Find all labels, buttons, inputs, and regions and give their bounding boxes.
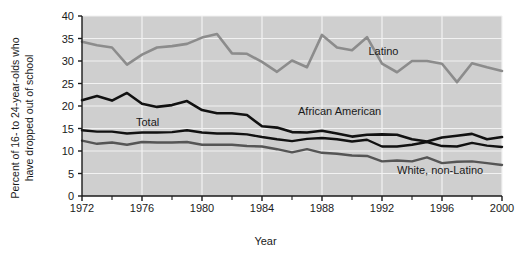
y-tick-label-10: 10 bbox=[50, 145, 74, 157]
y-tick-label-20: 20 bbox=[50, 100, 74, 112]
plot-area bbox=[0, 0, 531, 259]
x-tick-label-1976: 1976 bbox=[130, 202, 154, 214]
dropout-rate-line-chart: Percent of 16- to 24-year-olds who have … bbox=[0, 0, 531, 259]
x-tick-label-1972: 1972 bbox=[70, 202, 94, 214]
series-label-latino: Latino bbox=[369, 45, 399, 57]
x-tick-label-2000: 2000 bbox=[490, 202, 514, 214]
series-label-african-american: African American bbox=[298, 105, 381, 117]
y-tick-label-35: 35 bbox=[50, 33, 74, 45]
y-tick-label-15: 15 bbox=[50, 123, 74, 135]
x-tick-label-1988: 1988 bbox=[310, 202, 334, 214]
y-tick-label-30: 30 bbox=[50, 55, 74, 67]
series-label-total: Total bbox=[136, 116, 159, 128]
y-tick-label-40: 40 bbox=[50, 10, 74, 22]
y-tick-label-5: 5 bbox=[50, 168, 74, 180]
series-label-white-non-latino: White, non-Latino bbox=[397, 164, 483, 176]
y-tick-label-25: 25 bbox=[50, 78, 74, 90]
x-tick-label-1984: 1984 bbox=[250, 202, 274, 214]
x-tick-label-1996: 1996 bbox=[430, 202, 454, 214]
x-axis-title: Year bbox=[0, 235, 531, 247]
x-tick-label-1992: 1992 bbox=[370, 202, 394, 214]
x-tick-label-1980: 1980 bbox=[190, 202, 214, 214]
y-tick-label-0: 0 bbox=[50, 190, 74, 202]
